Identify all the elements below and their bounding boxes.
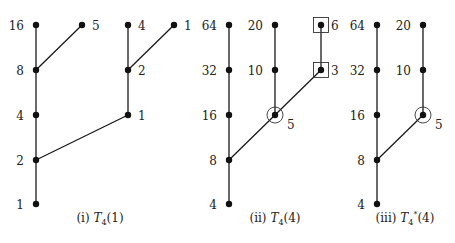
tree-node [33, 67, 39, 73]
node-label: 10 [396, 64, 411, 78]
tree-node [226, 201, 232, 207]
tree-node [226, 22, 232, 28]
node-label: 4 [16, 109, 24, 123]
node-label: 2 [16, 154, 24, 168]
tree-node [171, 22, 177, 28]
tree-node [272, 22, 278, 28]
node-label: 1 [138, 109, 146, 123]
panel-t4-1: 16842154211(i) T4(1) [9, 19, 192, 228]
node-label: 10 [248, 64, 263, 78]
node-label: 5 [92, 19, 100, 33]
node-label: 32 [202, 64, 217, 78]
node-label: 4 [209, 198, 217, 212]
node-label: 1 [184, 19, 192, 33]
node-label: 16 [350, 109, 365, 123]
panel-caption: (ii) T4(4) [250, 211, 301, 227]
tree-node [125, 67, 131, 73]
tree-node [33, 112, 39, 118]
tree-node [374, 157, 380, 163]
tree-node [226, 157, 232, 163]
node-label: 16 [9, 19, 24, 33]
tree-node [374, 201, 380, 207]
node-label: 1 [16, 198, 24, 212]
node-label: 64 [202, 19, 218, 33]
node-label: 5 [435, 118, 443, 132]
node-label: 3 [331, 64, 339, 78]
tree-node [33, 157, 39, 163]
tree-node [125, 22, 131, 28]
tree-node [374, 112, 380, 118]
panel-caption: (iii) T4*(4) [376, 210, 435, 227]
node-label: 8 [209, 154, 217, 168]
tree-edge [36, 25, 82, 70]
tree-node [420, 22, 426, 28]
tree-node [420, 112, 426, 118]
tree-node [420, 67, 426, 73]
tree-edge [377, 115, 423, 160]
node-label: 8 [357, 154, 365, 168]
tree-node [226, 67, 232, 73]
node-label: 2 [138, 64, 146, 78]
node-label: 16 [202, 109, 217, 123]
tree-node [318, 22, 324, 28]
tree-node [374, 67, 380, 73]
node-label: 5 [287, 118, 295, 132]
node-label: 20 [248, 19, 263, 33]
tree-edge [128, 25, 174, 70]
node-label: 6 [331, 19, 339, 33]
tree-node [125, 112, 131, 118]
tree-node [33, 22, 39, 28]
node-label: 20 [396, 19, 411, 33]
panel-t4-4: 643216842010563(ii) T4(4) [202, 18, 339, 228]
node-label: 4 [138, 19, 146, 33]
tree-node [318, 67, 324, 73]
node-label: 4 [357, 198, 365, 212]
node-label: 8 [16, 64, 24, 78]
tree-node [272, 67, 278, 73]
tree-node [272, 112, 278, 118]
node-label: 32 [350, 64, 365, 78]
tree-diagram-figure: 16842154211(i) T4(1) 643216842010563(ii)… [0, 0, 455, 243]
tree-edge [36, 115, 128, 160]
panel-t4-star-4: 6432168420105(iii) T4*(4) [350, 19, 443, 228]
panel-caption: (i) T4(1) [76, 211, 123, 227]
tree-node [226, 112, 232, 118]
tree-node [79, 22, 85, 28]
node-label: 64 [350, 19, 366, 33]
tree-node [33, 201, 39, 207]
tree-node [374, 22, 380, 28]
